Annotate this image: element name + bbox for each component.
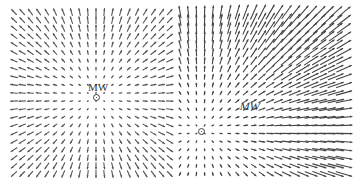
arrow-head-icon: [204, 75, 206, 77]
arrow-head-icon: [212, 6, 214, 8]
vector-arrow: [312, 82, 327, 88]
arrow-head-icon: [171, 92, 173, 94]
vector-arrow: [87, 116, 88, 118]
sun-symbol-icon-left: [93, 94, 100, 101]
vector-arrow: [337, 74, 352, 80]
vector-arrow: [312, 65, 326, 72]
vector-field-arrows: [0, 0, 355, 191]
vector-arrow: [188, 117, 189, 118]
arrow-head-icon: [204, 49, 206, 51]
arrow-head-icon: [95, 17, 97, 19]
arrow-head-icon: [95, 150, 97, 152]
vector-arrow: [329, 65, 344, 72]
arrow-head-icon: [254, 132, 256, 134]
vector-field-figure: MW MW: [0, 0, 355, 191]
arrow-head-icon: [237, 132, 239, 134]
arrow-head-icon: [95, 159, 97, 161]
vector-arrow: [337, 57, 351, 64]
arrow-head-icon: [195, 49, 197, 51]
arrow-head-icon: [204, 91, 206, 93]
arrow-head-icon: [271, 124, 273, 126]
vector-arrow: [336, 91, 351, 95]
vector-arrow: [79, 84, 80, 85]
vector-arrow: [112, 124, 113, 127]
arrow-head-icon: [36, 100, 38, 102]
arrow-head-icon: [204, 83, 206, 85]
vector-arrow: [251, 5, 257, 20]
arrow-head-icon: [87, 175, 89, 177]
vector-arrow: [212, 157, 213, 159]
vector-arrow: [337, 40, 351, 48]
vector-arrow: [112, 67, 113, 70]
vector-arrow: [104, 76, 105, 78]
arrow-head-icon: [45, 100, 47, 102]
arrow-head-icon: [350, 133, 352, 135]
vector-arrow: [87, 67, 88, 70]
vector-arrow: [120, 84, 122, 85]
vector-arrow: [70, 109, 72, 110]
vector-arrow: [79, 116, 80, 118]
vector-arrow: [228, 149, 231, 151]
arrow-head-icon: [280, 124, 282, 126]
arrow-head-icon: [154, 100, 156, 102]
arrow-head-icon: [95, 51, 97, 53]
arrow-head-icon: [19, 100, 21, 102]
vector-arrow: [266, 13, 274, 27]
arrow-head-icon: [53, 92, 55, 94]
vector-arrow: [220, 108, 222, 110]
vector-arrow: [112, 109, 113, 110]
arrow-head-icon: [87, 17, 89, 19]
arrow-head-icon: [263, 124, 265, 126]
arrow-head-icon: [11, 92, 13, 94]
vector-arrow: [196, 133, 197, 134]
vector-arrow: [220, 125, 222, 126]
arrow-head-icon: [95, 9, 97, 11]
vector-arrow: [336, 125, 352, 126]
vector-arrow: [274, 5, 283, 18]
arrow-head-icon: [19, 92, 21, 94]
vector-arrow: [204, 125, 205, 126]
arrow-head-icon: [350, 116, 352, 118]
arrow-head-icon: [350, 149, 352, 151]
arrow-head-icon: [350, 141, 352, 143]
vector-arrow: [104, 67, 105, 70]
vector-arrow: [320, 82, 335, 87]
arrow-head-icon: [204, 66, 206, 68]
vector-field-left: [11, 9, 174, 178]
vector-arrow: [196, 117, 197, 119]
vector-arrow: [320, 65, 334, 72]
vector-arrow: [212, 100, 213, 103]
vector-arrow: [321, 57, 335, 65]
mw-label-right: MW: [239, 101, 262, 112]
vector-arrow: [212, 141, 213, 142]
vector-arrow: [179, 108, 181, 110]
vector-arrow: [79, 109, 80, 110]
vector-arrow: [328, 164, 343, 168]
arrow-head-icon: [163, 92, 165, 94]
vector-arrow: [112, 84, 113, 85]
vector-arrow: [188, 100, 189, 103]
vector-arrow: [212, 149, 213, 151]
arrow-head-icon: [95, 59, 97, 61]
vector-arrow: [337, 66, 352, 72]
vector-arrow: [328, 82, 343, 87]
arrow-head-icon: [95, 42, 97, 44]
vector-arrow: [79, 67, 80, 70]
arrow-head-icon: [145, 92, 147, 94]
vector-arrow: [79, 124, 80, 127]
vector-arrow: [120, 116, 122, 118]
vector-arrow: [336, 164, 352, 168]
vector-arrow: [220, 157, 222, 159]
vector-arrow: [320, 91, 335, 96]
vector-arrow: [112, 76, 113, 78]
vector-arrow: [336, 172, 351, 177]
vector-arrow: [179, 117, 181, 118]
vector-arrow: [179, 149, 181, 151]
mw-label-left: MW: [88, 82, 108, 93]
arrow-head-icon: [137, 100, 139, 102]
arrow-head-icon: [154, 92, 156, 94]
vector-arrow: [104, 124, 105, 127]
vector-arrow: [312, 74, 327, 81]
vector-arrow: [120, 109, 122, 110]
arrow-head-icon: [187, 6, 189, 8]
